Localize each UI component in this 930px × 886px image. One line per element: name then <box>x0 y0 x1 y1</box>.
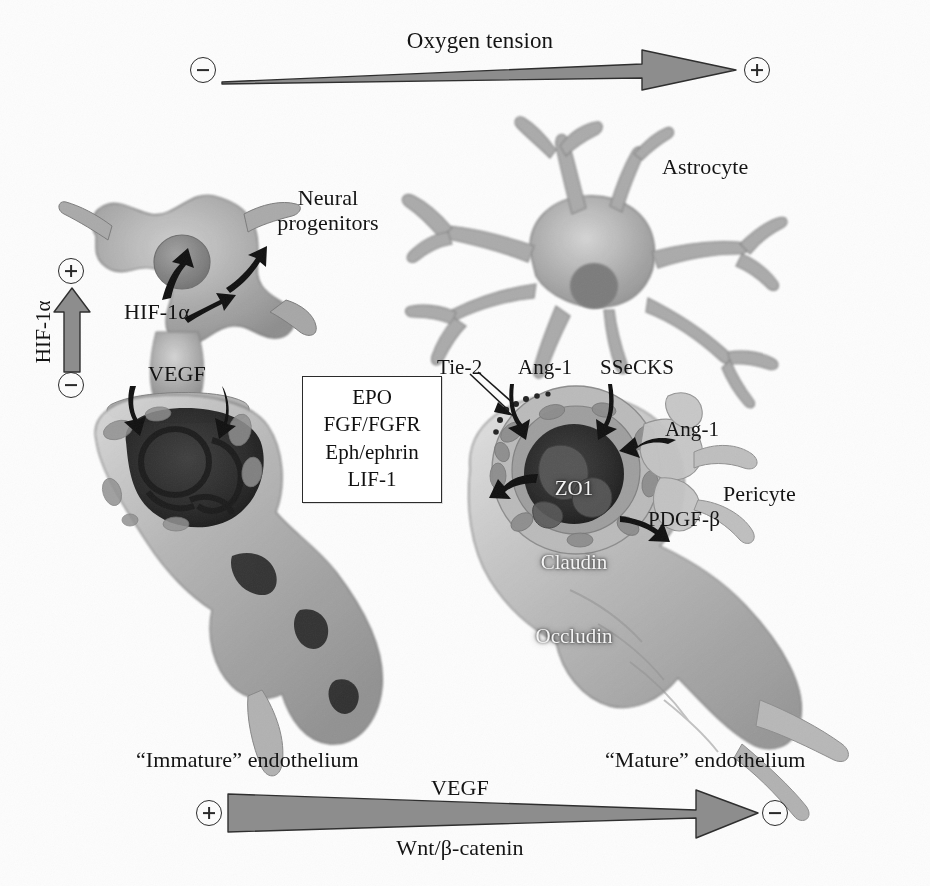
junction-protein-claudin: Claudin <box>494 550 654 575</box>
oxygen-tension-minus-sign <box>190 57 216 83</box>
wnt-bcatenin-axis-label: Wnt/β-catenin <box>320 836 600 861</box>
figure-canvas: Oxygen tension HIF-1α Neural progenitors… <box>0 0 930 886</box>
ang1-right-annotation: Ang-1 <box>665 418 719 442</box>
signaling-item-lif: LIF-1 <box>313 466 431 493</box>
signaling-item-epo: EPO <box>313 384 431 411</box>
signaling-item-fgf: FGF/FGFR <box>313 411 431 438</box>
junction-proteins-label: ZO1 Claudin Occludin <box>494 426 654 698</box>
vegf-axis-label: VEGF <box>360 776 560 801</box>
ang1-left-annotation: Ang-1 <box>518 356 572 380</box>
vegf-axis-plus-sign <box>196 800 222 826</box>
signaling-item-eph: Eph/ephrin <box>313 439 431 466</box>
immature-endothelium-label: “Immature” endothelium <box>136 748 359 773</box>
ssecks-annotation: SSeCKS <box>600 356 674 380</box>
mature-endothelium-label: “Mature” endothelium <box>605 748 806 773</box>
hif1a-axis-label: HIF-1α <box>32 282 56 382</box>
hif1a-axis-plus-sign <box>58 258 84 284</box>
vegf-axis-minus-sign <box>762 800 788 826</box>
hif1a-axis-arrow <box>52 288 92 372</box>
astrocyte-label: Astrocyte <box>662 155 748 180</box>
tie2-annotation: Tie-2 <box>437 356 482 380</box>
signaling-factor-box: EPO FGF/FGFR Eph/ephrin LIF-1 <box>302 376 442 503</box>
junction-protein-zo1: ZO1 <box>494 476 654 501</box>
hif1a-annotation: HIF-1α <box>124 300 190 325</box>
junction-protein-occludin: Occludin <box>494 624 654 649</box>
neural-progenitors-label: Neural progenitors <box>238 186 418 235</box>
pdgfb-annotation: PDGF-β <box>648 508 720 532</box>
hif1a-axis-minus-sign <box>58 372 84 398</box>
oxygen-tension-label: Oxygen tension <box>330 28 630 54</box>
pericyte-label: Pericyte <box>723 482 796 507</box>
oxygen-tension-plus-sign <box>744 57 770 83</box>
vegf-annotation: VEGF <box>148 362 206 387</box>
